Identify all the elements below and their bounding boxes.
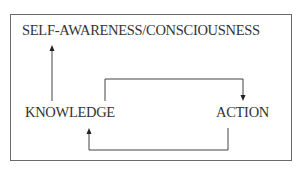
arrowhead-down-icon bbox=[241, 95, 246, 101]
arrowhead-up-icon bbox=[50, 45, 55, 51]
edge-action-to-knowledge bbox=[89, 128, 228, 150]
edges bbox=[0, 0, 305, 171]
edge-knowledge-to-action bbox=[105, 79, 243, 101]
arrowhead-up-icon bbox=[87, 128, 92, 134]
